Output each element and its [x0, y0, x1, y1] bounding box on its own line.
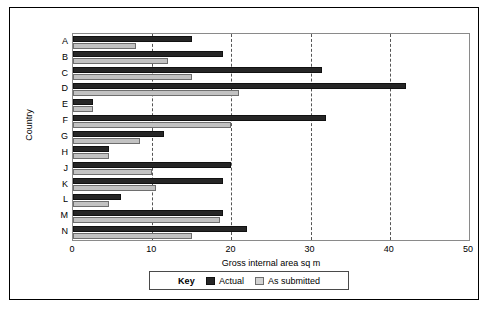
bar-E-as-submitted — [73, 106, 93, 112]
bar-group-E — [73, 97, 469, 113]
bar-G-actual — [73, 131, 164, 137]
bar-J-actual — [73, 162, 231, 168]
bar-B-actual — [73, 51, 223, 57]
y-tick-C: C — [28, 68, 68, 78]
x-tick-50: 50 — [448, 244, 488, 254]
bar-H-actual — [73, 146, 109, 152]
bar-L-actual — [73, 194, 121, 200]
bar-group-N — [73, 224, 469, 240]
legend-key-label: Key — [178, 276, 195, 286]
x-tick-40: 40 — [369, 244, 409, 254]
legend-swatch-as-submitted-icon — [255, 277, 264, 285]
bar-group-J — [73, 161, 469, 177]
x-tick-30: 30 — [290, 244, 330, 254]
legend-swatch-actual-icon — [206, 277, 215, 285]
bar-B-as-submitted — [73, 58, 168, 64]
legend-label-actual: Actual — [219, 276, 244, 286]
bar-H-as-submitted — [73, 153, 109, 159]
bar-A-actual — [73, 36, 192, 42]
bar-series-container — [73, 34, 469, 240]
bar-F-actual — [73, 115, 326, 121]
bar-C-as-submitted — [73, 74, 192, 80]
bar-K-actual — [73, 178, 223, 184]
y-tick-D: D — [28, 83, 68, 93]
bar-K-as-submitted — [73, 185, 156, 191]
y-tick-E: E — [28, 99, 68, 109]
x-tick-20: 20 — [210, 244, 250, 254]
bar-A-as-submitted — [73, 43, 136, 49]
y-tick-N: N — [28, 226, 68, 236]
bar-group-M — [73, 208, 469, 224]
bar-group-K — [73, 177, 469, 193]
figure-frame: Country ABCDEFGHJKLMN 01020304050 Gross … — [9, 7, 479, 300]
bar-E-actual — [73, 99, 93, 105]
chart-figure: Country ABCDEFGHJKLMN 01020304050 Gross … — [0, 0, 490, 309]
bar-C-actual — [73, 67, 322, 73]
y-tick-B: B — [28, 52, 68, 62]
bar-group-D — [73, 82, 469, 98]
bar-G-as-submitted — [73, 138, 140, 144]
legend-entry-as-submitted: As submitted — [255, 276, 320, 286]
bar-group-F — [73, 113, 469, 129]
y-tick-L: L — [28, 194, 68, 204]
y-axis-tick-labels: ABCDEFGHJKLMN — [24, 33, 68, 241]
x-axis-title: Gross internal area sq m — [72, 258, 470, 268]
y-tick-F: F — [28, 115, 68, 125]
bar-D-actual — [73, 83, 406, 89]
bar-D-as-submitted — [73, 90, 239, 96]
bar-L-as-submitted — [73, 201, 109, 207]
bar-M-actual — [73, 210, 223, 216]
y-tick-G: G — [28, 131, 68, 141]
bar-M-as-submitted — [73, 217, 220, 223]
legend-label-as-submitted: As submitted — [268, 276, 320, 286]
x-tick-0: 0 — [52, 244, 92, 254]
y-tick-M: M — [28, 210, 68, 220]
y-tick-J: J — [28, 163, 68, 173]
plot-area — [72, 33, 470, 241]
bar-group-G — [73, 129, 469, 145]
bar-group-C — [73, 66, 469, 82]
bar-J-as-submitted — [73, 169, 152, 175]
x-axis-tick-labels: 01020304050 — [72, 244, 470, 258]
bar-group-A — [73, 34, 469, 50]
y-tick-K: K — [28, 179, 68, 189]
legend-entry-actual: Actual — [206, 276, 244, 286]
bar-N-actual — [73, 226, 247, 232]
bar-group-L — [73, 192, 469, 208]
bar-N-as-submitted — [73, 233, 192, 239]
chart-legend: Key Actual As submitted — [149, 271, 349, 290]
x-tick-10: 10 — [131, 244, 171, 254]
y-tick-H: H — [28, 147, 68, 157]
bar-group-H — [73, 145, 469, 161]
bar-group-B — [73, 50, 469, 66]
y-tick-A: A — [28, 36, 68, 46]
bar-F-as-submitted — [73, 122, 231, 128]
